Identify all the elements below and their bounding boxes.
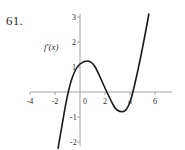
- y-tick-label-neg1: -1: [70, 113, 77, 122]
- x-tick-label-0: 0: [83, 97, 87, 106]
- curve-label-f-prime: f'(x): [44, 42, 58, 52]
- x-tick-label-4: 4: [128, 97, 132, 106]
- x-tick-label-6: 6: [153, 97, 157, 106]
- y-tick-label-3: 3: [72, 13, 76, 22]
- x-tick-label-neg4: -4: [27, 97, 34, 106]
- curve-f-prime: [58, 14, 149, 148]
- x-tick-label-neg2: -2: [52, 97, 59, 106]
- y-tick-label-2: 2: [72, 38, 76, 47]
- y-tick-label-neg2: -2: [70, 138, 77, 147]
- figure-page: 61. f'(x) -4 -2 0 2 4 6 3 2 1: [0, 0, 185, 150]
- y-tick-label-1: 1: [72, 63, 76, 72]
- graph-figure: [0, 0, 185, 150]
- x-tick-label-2: 2: [103, 97, 107, 106]
